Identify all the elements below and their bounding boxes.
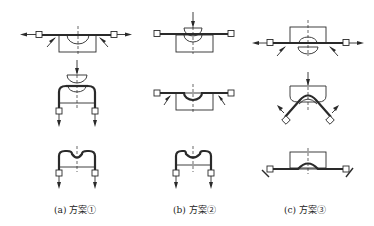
scheme-a-step-1 [20, 26, 132, 56]
caption-scheme-b: (b) 方案② [173, 203, 216, 216]
scheme-c-step-1 [252, 20, 364, 56]
caption-scheme-c: (c) 方案③ [284, 203, 326, 216]
scheme-c-step-2 [277, 72, 339, 124]
caption-scheme-a: (a) 方案① [54, 203, 96, 216]
scheme-b-step-1 [154, 12, 234, 54]
scheme-b-step-2 [154, 84, 234, 114]
scheme-b-step-3 [173, 146, 214, 189]
scheme-a-step-2 [56, 60, 98, 127]
scheme-a-step-3 [56, 146, 98, 189]
scheme-c-step-3 [262, 148, 353, 177]
forming-schemes-diagram [0, 0, 374, 226]
